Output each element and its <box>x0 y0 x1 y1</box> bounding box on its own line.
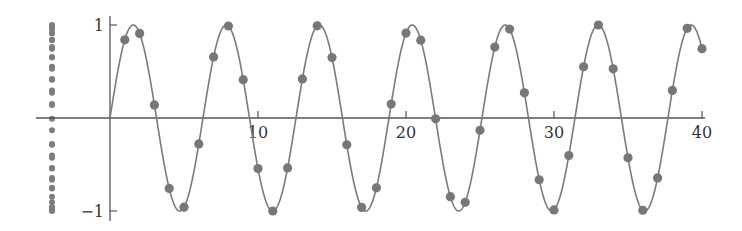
sample-point <box>683 24 692 33</box>
sample-point <box>239 75 248 84</box>
projected-point <box>49 87 55 93</box>
x-tick-label: 30 <box>544 123 564 142</box>
sample-point <box>268 206 277 215</box>
sample-point <box>461 198 470 207</box>
projected-point <box>49 76 55 82</box>
sample-point <box>697 44 706 53</box>
sample-point <box>327 53 336 62</box>
sample-point <box>609 64 618 73</box>
sample-point <box>549 205 558 214</box>
sine-sample-chart: 10203040 1−1 <box>0 0 742 231</box>
sample-point <box>150 100 159 109</box>
sample-point <box>224 21 233 30</box>
sample-point <box>209 52 218 61</box>
projected-point <box>49 155 55 161</box>
sample-point <box>564 151 573 160</box>
sample-point <box>179 203 188 212</box>
sample-point <box>623 153 632 162</box>
sample-point <box>431 114 440 123</box>
projected-point <box>49 199 55 205</box>
sample-point <box>475 126 484 135</box>
sample-point <box>490 42 499 51</box>
sample-point <box>638 206 647 215</box>
sample-point <box>372 183 381 192</box>
sample-point <box>135 29 144 38</box>
projected-point <box>49 46 55 52</box>
sample-point <box>594 20 603 29</box>
sample-point <box>535 175 544 184</box>
x-tick-label: 40 <box>692 123 712 142</box>
sample-point <box>298 74 307 83</box>
sample-point <box>283 163 292 172</box>
sample-point <box>401 28 410 37</box>
sample-point <box>668 86 677 95</box>
sample-point <box>387 99 396 108</box>
projected-point <box>49 194 55 200</box>
projected-point <box>49 37 55 43</box>
sample-point <box>505 24 514 33</box>
sample-point <box>579 62 588 71</box>
y-tick-label: −1 <box>80 202 104 221</box>
projected-point <box>49 207 55 213</box>
projected-point <box>49 25 55 31</box>
x-tick-label: 20 <box>396 123 416 142</box>
sample-point <box>357 203 366 212</box>
projected-point <box>49 116 55 122</box>
projected-point <box>49 101 55 107</box>
projected-point <box>49 175 55 181</box>
sample-point <box>520 88 529 97</box>
sample-point <box>416 36 425 45</box>
sample-point <box>165 184 174 193</box>
projected-point <box>49 55 55 61</box>
projected-point <box>49 127 55 133</box>
projected-point <box>49 185 55 191</box>
sample-point <box>313 21 322 30</box>
y-tick-label: 1 <box>94 16 104 35</box>
sample-point <box>253 164 262 173</box>
projected-point <box>49 165 55 171</box>
sample-point <box>194 139 203 148</box>
projected-point <box>49 142 55 148</box>
sample-point <box>342 140 351 149</box>
sample-point <box>120 35 129 44</box>
sample-point <box>653 173 662 182</box>
projected-point <box>49 66 55 72</box>
sample-point <box>446 192 455 201</box>
